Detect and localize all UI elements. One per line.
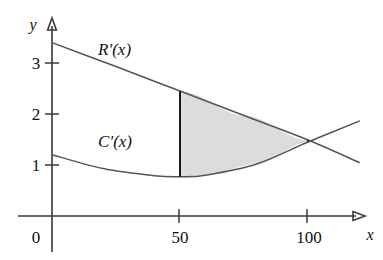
marginal-revenue-cost-figure: y x 0 1 2 3 50 100 R′(x) C′(x)	[0, 0, 383, 260]
y-tick-label-2: 2	[32, 105, 41, 124]
x-tick-label-50: 50	[172, 228, 189, 247]
y-tick-label-3: 3	[32, 54, 41, 73]
plot-canvas: y x 0 1 2 3 50 100 R′(x) C′(x)	[0, 0, 383, 260]
x-axis-label: x	[365, 226, 373, 243]
curve-label-marginal-revenue: R′(x)	[97, 40, 131, 59]
curve-label-marginal-cost: C′(x)	[98, 132, 132, 151]
shaded-region-between-curves	[180, 91, 308, 177]
y-tick-label-1: 1	[32, 156, 41, 175]
x-tick-label-100: 100	[296, 228, 322, 247]
origin-label: 0	[32, 228, 41, 247]
y-axis-label: y	[27, 16, 37, 34]
